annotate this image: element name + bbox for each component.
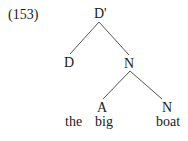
word-the: the: [65, 115, 82, 129]
node-n-upper: N: [124, 57, 134, 71]
node-d: D: [64, 56, 74, 70]
edge-dprime-to-d: [70, 22, 99, 54]
edge-dprime-to-n: [99, 22, 129, 55]
edge-n-to-a: [103, 71, 130, 99]
word-big: big: [95, 115, 113, 129]
word-boat: boat: [156, 115, 180, 129]
node-a: A: [97, 101, 107, 115]
node-n-lower: N: [162, 101, 172, 115]
edge-n-to-n: [130, 71, 162, 99]
node-dprime: D': [94, 7, 107, 21]
